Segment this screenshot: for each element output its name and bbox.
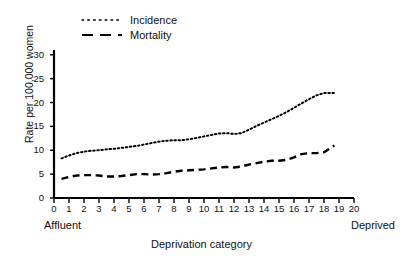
x-tick-label: 7 [151,203,167,214]
x-tick-label: 5 [121,203,137,214]
x-tick-label: 20 [346,203,362,214]
x-tick-label: 1 [61,203,77,214]
y-axis-title: Rate per 100,000 women [23,9,35,159]
y-tick-label: 0 [22,192,44,203]
y-tick-label: 10 [22,144,44,155]
x-tick-label: 17 [301,203,317,214]
x-tick-label: 14 [256,203,272,214]
x-tick-label: 6 [136,203,152,214]
y-tick-label: 20 [22,97,44,108]
x-axis-title: Deprivation category [0,238,403,250]
x-tick-label: 4 [106,203,122,214]
x-tick-label: 9 [181,203,197,214]
y-tick-label: 25 [22,73,44,84]
x-axis-left-endpoint-label: Affluent [44,219,81,231]
y-tick-label: 30 [22,49,44,60]
x-tick-label: 10 [196,203,212,214]
y-tick-label: 5 [22,168,44,179]
x-tick-label: 11 [211,203,227,214]
x-tick-label: 3 [91,203,107,214]
x-tick-label: 13 [241,203,257,214]
x-tick-label: 15 [271,203,287,214]
x-tick-label: 18 [316,203,332,214]
x-tick-label: 0 [46,203,62,214]
x-tick-label: 12 [226,203,242,214]
y-tick-label: 15 [22,120,44,131]
x-tick-label: 19 [331,203,347,214]
x-tick-label: 8 [166,203,182,214]
x-axis-right-endpoint-label: Deprived [351,219,395,231]
x-tick-label: 16 [286,203,302,214]
x-tick-label: 2 [76,203,92,214]
chart-figure: Incidence Mortality Rate per 100,000 wom… [0,0,403,260]
